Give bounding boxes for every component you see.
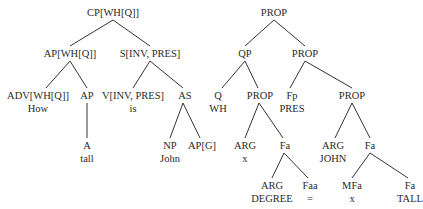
semantic-tree-edge bbox=[352, 153, 370, 178]
node-label: V[INV, PRES] bbox=[102, 89, 164, 102]
syntactic-tree-node-apg: AP[G] bbox=[188, 139, 216, 152]
semantic-tree-node-fa2: Fa bbox=[365, 139, 376, 152]
node-label: CP[WH[Q]] bbox=[87, 6, 139, 19]
syntactic-tree-edge bbox=[170, 103, 183, 138]
semantic-tree-edge bbox=[272, 153, 284, 178]
node-label: Faa bbox=[302, 179, 317, 192]
syntactic-tree-node-ap: AP bbox=[80, 89, 93, 102]
node-word: tall bbox=[80, 152, 93, 165]
node-label: ARG bbox=[320, 139, 347, 152]
semantic-tree-node-prop3: PROP bbox=[339, 89, 365, 102]
semantic-tree-edge bbox=[305, 61, 352, 88]
node-label: S[INV, PRES] bbox=[120, 47, 181, 60]
syntactic-tree-edge bbox=[113, 20, 150, 46]
node-label: NP bbox=[160, 139, 180, 152]
semantic-tree-node-mfa: MFax bbox=[342, 179, 362, 205]
semantic-tree-edge bbox=[245, 61, 258, 88]
node-word: = bbox=[302, 192, 317, 205]
node-label: PROP bbox=[247, 89, 273, 102]
semantic-tree-node-fa1: Fa bbox=[280, 139, 291, 152]
semantic-tree-edge bbox=[352, 103, 370, 138]
node-label: Fp bbox=[279, 89, 304, 102]
node-label: ARG bbox=[251, 179, 292, 192]
semantic-tree-node-prop1: PROP bbox=[292, 47, 318, 60]
syntactic-tree-node-np: NPJohn bbox=[160, 139, 180, 165]
node-label: Fa bbox=[280, 139, 291, 152]
semantic-tree-node-fatall: FaTALL bbox=[397, 179, 423, 205]
syntactic-tree-node-sinv: S[INV, PRES] bbox=[120, 47, 181, 60]
node-word: PRES bbox=[279, 102, 304, 115]
semantic-tree-edge bbox=[222, 61, 245, 88]
semantic-tree-edge bbox=[245, 103, 259, 138]
node-label: A bbox=[80, 139, 93, 152]
syntactic-tree-edge bbox=[150, 61, 183, 88]
node-word: WH bbox=[209, 102, 227, 115]
semantic-tree-node-argjohn: ARGJOHN bbox=[320, 139, 347, 165]
semantic-tree-node-qp: QP bbox=[238, 47, 251, 60]
semantic-tree-edge bbox=[290, 61, 305, 88]
syntactic-tree-edge bbox=[183, 103, 200, 138]
syntactic-tree-edge bbox=[70, 61, 87, 88]
semantic-tree-node-argx: ARGx bbox=[234, 139, 256, 165]
syntactic-tree-edge bbox=[133, 61, 150, 88]
node-word: TALL bbox=[397, 192, 423, 205]
node-label: AP[WH[Q]] bbox=[44, 47, 97, 60]
semantic-tree-edge bbox=[335, 103, 352, 138]
node-label: Fa bbox=[365, 139, 376, 152]
syntactic-tree-node-apwh: AP[WH[Q]] bbox=[44, 47, 97, 60]
node-label: PROP bbox=[292, 47, 318, 60]
syntactic-tree-edge bbox=[46, 61, 70, 88]
node-label: ARG bbox=[234, 139, 256, 152]
syntactic-tree-node-as: AS bbox=[178, 89, 191, 102]
semantic-tree-node-fp: FpPRES bbox=[279, 89, 304, 115]
semantic-tree-edge bbox=[284, 153, 308, 178]
node-word: DEGREE bbox=[251, 192, 292, 205]
node-label: PROP bbox=[261, 6, 287, 19]
semantic-tree-node-q: QWH bbox=[209, 89, 227, 115]
node-word: JOHN bbox=[320, 152, 347, 165]
syntactic-tree-node-a: Atall bbox=[80, 139, 93, 165]
node-word: x bbox=[234, 152, 256, 165]
node-label: Fa bbox=[397, 179, 423, 192]
semantic-tree-node-prop0: PROP bbox=[261, 6, 287, 19]
semantic-tree-edge bbox=[370, 153, 408, 178]
semantic-tree-node-faa: Faa= bbox=[302, 179, 317, 205]
node-word: How bbox=[7, 102, 69, 115]
node-label: AS bbox=[178, 89, 191, 102]
node-word: John bbox=[160, 152, 180, 165]
semantic-tree-node-prop2: PROP bbox=[247, 89, 273, 102]
syntactic-tree-node-cp: CP[WH[Q]] bbox=[87, 6, 139, 19]
node-label: AP bbox=[80, 89, 93, 102]
semantic-tree-edge bbox=[274, 20, 305, 46]
node-word: x bbox=[342, 192, 362, 205]
syntactic-tree-node-adv: ADV[WH[Q]]How bbox=[7, 89, 69, 115]
node-label: Q bbox=[209, 89, 227, 102]
semantic-tree-edge bbox=[245, 20, 274, 46]
syntactic-tree-node-v: V[INV, PRES]is bbox=[102, 89, 164, 115]
node-word: is bbox=[102, 102, 164, 115]
node-label: ADV[WH[Q]] bbox=[7, 89, 69, 102]
node-label: QP bbox=[238, 47, 251, 60]
node-label: MFa bbox=[342, 179, 362, 192]
syntactic-tree-edge bbox=[70, 20, 113, 46]
node-label: PROP bbox=[339, 89, 365, 102]
node-label: AP[G] bbox=[188, 139, 216, 152]
semantic-tree-node-argdeg: ARGDEGREE bbox=[251, 179, 292, 205]
